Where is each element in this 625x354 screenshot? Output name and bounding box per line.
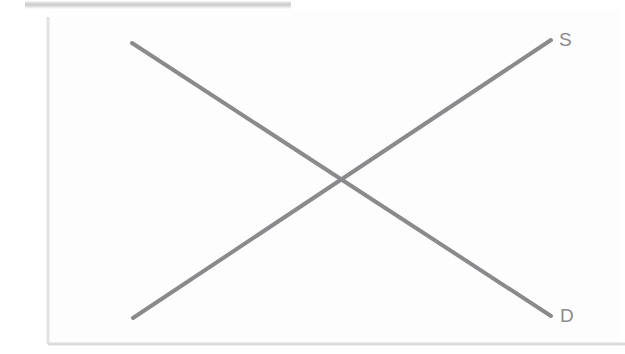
supply-demand-figure: S D	[0, 0, 625, 354]
curves-group	[132, 40, 551, 318]
supply-curve-label: S	[559, 30, 572, 49]
diagram-canvas	[0, 0, 625, 354]
demand-curve-label: D	[560, 306, 574, 325]
